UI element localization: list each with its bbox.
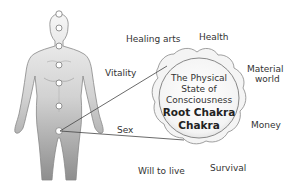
crown-chakra-dot bbox=[56, 11, 62, 17]
human-figure bbox=[15, 14, 103, 180]
label-money: Money bbox=[251, 120, 281, 130]
label-survival: Survival bbox=[210, 163, 246, 173]
label-health: Health bbox=[199, 32, 229, 42]
solar-plexus-chakra-dot bbox=[56, 80, 62, 86]
label-material-line1: Material bbox=[247, 64, 284, 74]
label-material-world: Material world bbox=[247, 64, 284, 84]
label-sex: Sex bbox=[117, 125, 133, 135]
center-line-2: State of bbox=[159, 84, 239, 95]
label-healing-arts: Healing arts bbox=[126, 34, 181, 44]
center-line-3: Consciousness bbox=[159, 95, 239, 106]
center-title-1: Root Chakra bbox=[159, 106, 239, 119]
center-label: The Physical State of Consciousness Root… bbox=[159, 73, 239, 132]
center-line-1: The Physical bbox=[159, 73, 239, 84]
heart-chakra-dot bbox=[56, 62, 62, 68]
third-eye-chakra-dot bbox=[56, 25, 62, 31]
sacral-chakra-dot bbox=[56, 103, 62, 109]
center-title-2: Chakra bbox=[159, 119, 239, 132]
throat-chakra-dot bbox=[56, 43, 62, 49]
label-will-to-live: Will to live bbox=[138, 166, 185, 176]
label-vitality: Vitality bbox=[105, 68, 136, 78]
diagram-graphics bbox=[0, 0, 292, 192]
label-material-line2: world bbox=[247, 74, 284, 84]
